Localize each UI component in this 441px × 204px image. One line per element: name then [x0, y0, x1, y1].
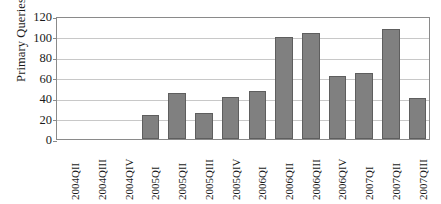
bar [355, 73, 373, 139]
x-axis-tick-label: 2004QIV [123, 140, 135, 200]
x-axis-tick-label: 2006QIV [336, 140, 348, 200]
x-axis-tick-label: 2005QIII [203, 140, 215, 200]
x-axis-tick-labels: 2004QII2004QIII2004QIV2005QI2005QII2005Q… [56, 141, 430, 204]
bar [222, 97, 240, 139]
x-axis-tick: 2006QI [243, 141, 270, 204]
x-axis-tick: 2006QII [270, 141, 297, 204]
x-axis-tick: 2006QIV [323, 141, 350, 204]
bar [329, 76, 347, 139]
bar [302, 33, 320, 139]
y-axis-tick-label: 80 [22, 52, 52, 64]
bar [249, 91, 267, 139]
y-axis-tick-label: 120 [22, 11, 52, 23]
bar-chart: Primary Queries 020406080100120 2004QII2… [0, 0, 441, 204]
x-axis-tick: 2007QII [377, 141, 404, 204]
x-axis-tick-label: 2004QII [69, 140, 81, 200]
x-axis-tick: 2007QI [350, 141, 377, 204]
x-axis-tick: 2005QIV [216, 141, 243, 204]
bar [409, 98, 427, 139]
x-axis-tick: 2005QI [136, 141, 163, 204]
x-axis-tick-label: 2005QI [149, 140, 161, 200]
y-axis-tick-label: 100 [22, 32, 52, 44]
x-axis-tick-label: 2004QIII [96, 140, 108, 200]
x-axis-tick: 2005QIII [190, 141, 217, 204]
x-axis-tick-label: 2007QIII [417, 140, 429, 200]
x-axis-tick-label: 2007QII [390, 140, 402, 200]
plot-area [56, 17, 430, 140]
x-axis-tick: 2004QIV [109, 141, 136, 204]
y-axis-tick-labels: 020406080100120 [22, 0, 52, 204]
x-axis-tick: 2006QIII [296, 141, 323, 204]
x-axis-tick: 2005QII [163, 141, 190, 204]
bar [142, 115, 160, 139]
x-axis-tick-label: 2005QII [176, 140, 188, 200]
y-axis-tick-label: 20 [22, 114, 52, 126]
y-axis-tick-label: 40 [22, 93, 52, 105]
x-axis-tick-label: 2006QII [283, 140, 295, 200]
y-axis-tick-label: 60 [22, 73, 52, 85]
x-axis-tick: 2004QII [56, 141, 83, 204]
x-axis-tick-label: 2006QI [256, 140, 268, 200]
x-axis-tick: 2007QIII [403, 141, 430, 204]
x-axis-tick: 2004QIII [83, 141, 110, 204]
x-axis-tick-label: 2005QIV [230, 140, 242, 200]
bar [195, 113, 213, 139]
x-axis-tick-label: 2006QIII [310, 140, 322, 200]
bar-series [57, 18, 429, 139]
x-axis-tick-label: 2007QI [363, 140, 375, 200]
y-axis-tick-label: 0 [22, 134, 52, 146]
bar [382, 29, 400, 139]
bar [275, 37, 293, 140]
bar [168, 93, 186, 139]
